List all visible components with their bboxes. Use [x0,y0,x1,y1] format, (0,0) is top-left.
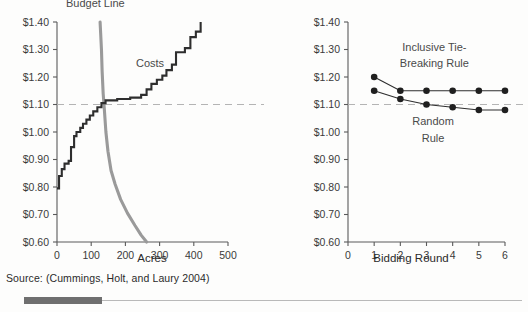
svg-text:$1.20: $1.20 [314,71,340,83]
chart-panel-right: $0.60$0.70$0.80$0.90$1.00$1.10$1.20$1.30… [278,0,528,270]
footer-tab-block [24,297,102,304]
svg-text:$0.70: $0.70 [23,208,49,220]
left-y-tick-labels: $0.60$0.70$0.80$0.90$1.00$1.10$1.20$1.30… [23,16,57,248]
svg-text:Breaking Rule: Breaking Rule [400,57,469,69]
costs-step-series [57,22,201,188]
svg-text:500: 500 [219,249,237,261]
svg-text:0: 0 [54,249,60,261]
svg-text:4: 4 [450,249,456,261]
svg-text:$1.30: $1.30 [23,43,49,55]
svg-text:Costs: Costs [136,57,165,69]
right-data-series [371,74,508,114]
chart-panel-left: $0.60$0.70$0.80$0.90$1.00$1.10$1.20$1.30… [0,0,278,270]
svg-text:$0.90: $0.90 [314,153,340,165]
svg-text:200: 200 [117,249,135,261]
svg-text:$1.10: $1.10 [314,98,340,110]
svg-text:$1.20: $1.20 [23,71,49,83]
budget-line-series [100,22,147,242]
left-x-axis-title: Acres [137,252,167,264]
svg-text:$1.30: $1.30 [314,43,340,55]
svg-text:$1.10: $1.10 [23,98,49,110]
svg-text:$1.40: $1.40 [314,16,340,28]
svg-text:$0.80: $0.80 [314,181,340,193]
svg-text:Budget Line: Budget Line [66,0,125,9]
svg-text:$0.70: $0.70 [314,208,340,220]
figure-container: $0.60$0.70$0.80$0.90$1.00$1.10$1.20$1.30… [0,0,528,312]
svg-text:Random: Random [412,115,454,127]
svg-text:$1.00: $1.00 [23,126,49,138]
svg-text:$0.80: $0.80 [23,181,49,193]
right-x-axis-title: Bidding Round [373,252,448,264]
svg-text:6: 6 [502,249,508,261]
svg-text:$0.60: $0.60 [23,236,49,248]
svg-text:$0.60: $0.60 [314,236,340,248]
svg-text:$0.90: $0.90 [23,153,49,165]
source-note: Source: (Cummings, Holt, and Laury 2004) [6,272,210,284]
svg-text:Rule: Rule [422,132,445,144]
svg-text:5: 5 [476,249,482,261]
right-y-tick-labels: $0.60$0.70$0.80$0.90$1.00$1.10$1.20$1.30… [314,16,348,248]
left-chart-svg: $0.60$0.70$0.80$0.90$1.00$1.10$1.20$1.30… [0,0,278,270]
svg-text:400: 400 [185,249,203,261]
svg-text:0: 0 [345,249,351,261]
left-series-annotations: Budget LineCosts [66,0,165,69]
svg-text:100: 100 [82,249,100,261]
svg-text:$1.40: $1.40 [23,16,49,28]
svg-text:Inclusive Tie-: Inclusive Tie- [402,41,467,53]
right-chart-svg: $0.60$0.70$0.80$0.90$1.00$1.10$1.20$1.30… [278,0,528,270]
right-series-annotations: Inclusive Tie-Breaking RuleRandomRule [400,41,469,144]
svg-text:$1.00: $1.00 [314,126,340,138]
